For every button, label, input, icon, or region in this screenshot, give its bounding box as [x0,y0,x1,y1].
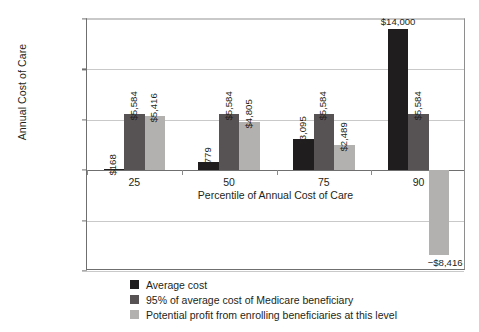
x-tick-mark [182,170,183,175]
gridline--5000 [87,221,464,222]
y-tick-mark [82,18,87,19]
y-tick-mark [82,69,87,70]
y-axis-title: Annual Cost of Care [16,7,28,177]
gridline--10000 [87,271,464,272]
bar-chart-figure: Annual Cost of Care $15,000$10,000$5,000… [0,0,479,332]
legend-swatch-icon [130,295,139,304]
bar-value-label: $3,095 [298,116,308,145]
y-tick-mark [82,270,87,271]
bar-value-label: $2,489 [339,122,349,151]
bar-25-series-2[interactable] [145,116,166,171]
bar-value-label: $5,584 [319,91,329,120]
y-tick-mark [82,220,87,221]
bar-value-label: $5,584 [414,91,424,120]
legend-item-label: Average cost [146,279,207,291]
gridline-0 [87,170,464,171]
bar-value-label: $779 [204,148,214,169]
bar-25-series-1[interactable] [124,114,145,170]
bar-value-label: $168 [109,154,119,175]
bar-50-series-1[interactable] [219,114,240,170]
chart-legend: Average cost95% of average cost of Medic… [130,277,460,322]
x-axis-title: Percentile of Annual Cost of Care [86,189,465,201]
bar-90-series-1[interactable] [408,114,429,170]
x-tick-label-75: 75 [294,176,354,188]
bar-90-series-0[interactable] [388,29,409,170]
x-tick-mark [87,170,88,175]
bar-value-label: $5,584 [129,91,139,120]
x-tick-mark [371,170,372,175]
bar-value-label: $5,584 [224,91,234,120]
x-tick-mark [277,170,278,175]
bar-90-series-2[interactable] [429,170,450,255]
x-tick-label-50: 50 [199,176,259,188]
legend-item-0[interactable]: Average cost [130,277,460,292]
legend-swatch-icon [130,280,139,289]
y-tick-mark [82,119,87,120]
bar-value-label: $14,000 [381,17,416,27]
plot-area: $15,000$10,000$5,000$0−$5,000−$10,00025$… [87,19,464,269]
legend-item-2[interactable]: Potential profit from enrolling benefici… [130,307,460,322]
bar-50-series-2[interactable] [239,122,260,170]
bar-value-label: −$8,416 [428,258,463,268]
legend-item-1[interactable]: 95% of average cost of Medicare benefici… [130,292,460,307]
legend-item-label: Potential profit from enrolling benefici… [146,309,397,321]
bar-value-label: $5,416 [150,93,160,122]
bar-value-label: $4,805 [245,99,255,128]
plot-frame: $15,000$10,000$5,000$0−$5,000−$10,00025$… [86,18,465,270]
legend-item-label: 95% of average cost of Medicare benefici… [146,294,353,306]
legend-swatch-icon [130,310,139,319]
bar-75-series-1[interactable] [314,114,335,170]
x-tick-label-25: 25 [104,176,164,188]
